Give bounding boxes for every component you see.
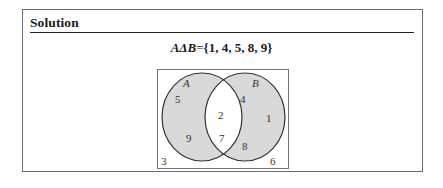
title-underline — [30, 32, 414, 33]
element-intersection: 2 — [218, 109, 224, 121]
element-only-a: 9 — [186, 132, 192, 144]
formula-equals: = — [196, 40, 203, 55]
symmetric-difference-formula: AΔB={1, 4, 5, 8, 9} — [0, 40, 443, 56]
formula-lhs: AΔB — [171, 40, 197, 55]
element-only-b: 1 — [266, 112, 272, 124]
element-only-b: 8 — [242, 140, 248, 152]
element-intersection: 7 — [219, 132, 225, 144]
element-only-b: 4 — [240, 93, 246, 105]
element-outside: 3 — [161, 155, 167, 167]
set-a-label: A — [182, 77, 190, 89]
element-outside: 6 — [270, 155, 276, 167]
formula-rhs: {1, 4, 5, 8, 9} — [204, 40, 273, 55]
section-title: Solution — [30, 15, 79, 31]
venn-diagram: A B 5 9 2 7 4 1 8 3 6 — [157, 69, 289, 169]
element-only-a: 5 — [175, 93, 181, 105]
set-b-label: B — [252, 77, 259, 89]
